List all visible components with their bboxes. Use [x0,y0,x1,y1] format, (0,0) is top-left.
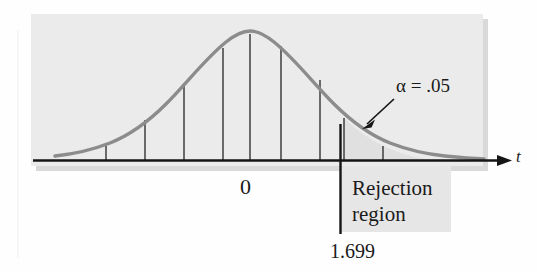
rejection-region-label: Rejection region [352,176,432,227]
critical-value-label: 1.699 [330,241,375,261]
alpha-significance-label: α = .05 [396,76,450,95]
figure-canvas [0,0,537,272]
figure-container: 0 t α = .05 1.699 Rejection region [0,0,537,272]
x-axis-arrowhead [497,155,512,166]
x-axis-variable-label: t [516,148,521,165]
center-axis-label: 0 [240,176,251,198]
distribution-chart-svg [0,0,537,272]
rejection-region-label-line1: Rejection [352,176,432,202]
rejection-region-label-line2: region [352,202,432,228]
